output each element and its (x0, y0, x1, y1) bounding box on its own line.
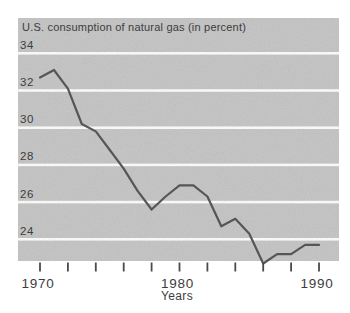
x-axis-title: Years (161, 289, 193, 303)
chart-title: U.S. consumption of natural gas (in perc… (22, 21, 246, 33)
chart-canvas: U.S. consumption of natural gas (in perc… (0, 0, 350, 313)
scan-texture (18, 18, 339, 261)
natural-gas-consumption-chart: U.S. consumption of natural gas (in perc… (0, 0, 350, 313)
x-axis-ticks (40, 263, 319, 272)
y-axis-label: 30 (20, 113, 34, 125)
y-axis-label: 28 (20, 150, 34, 162)
y-axis-label: 26 (20, 188, 34, 200)
y-axis-label: 32 (20, 76, 34, 88)
y-axis-label: 24 (20, 225, 34, 237)
x-axis-tick-label: 1970 (21, 276, 54, 291)
y-axis-label: 34 (20, 39, 34, 51)
x-axis-tick-label: 1990 (300, 276, 333, 291)
